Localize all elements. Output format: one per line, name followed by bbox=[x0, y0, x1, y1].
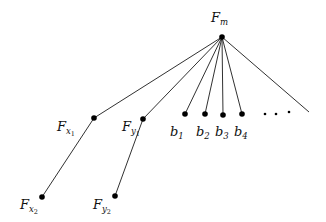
label-fx2: Fx2 bbox=[20, 198, 38, 212]
edge-fm-b2 bbox=[205, 37, 222, 114]
node-fy1 bbox=[140, 116, 146, 122]
tree-edges bbox=[0, 0, 326, 222]
edge-fm-open bbox=[222, 37, 309, 112]
tree-diagram: Fm Fx1 Fy1 b1 b2 b3 b4 Fx2 Fy2 bbox=[0, 0, 326, 222]
edge-fm-fy1 bbox=[143, 37, 222, 119]
ellipsis-dot-3 bbox=[288, 111, 291, 114]
node-b2 bbox=[202, 111, 208, 117]
node-b1 bbox=[182, 111, 188, 117]
label-fy1: Fy1 bbox=[122, 120, 140, 134]
edge-fm-b3 bbox=[222, 37, 223, 115]
label-b4: b4 bbox=[234, 125, 248, 138]
ellipsis-dot-2 bbox=[275, 113, 278, 116]
edge-fm-b4 bbox=[222, 37, 242, 114]
label-fm: Fm bbox=[211, 11, 228, 24]
node-fx2 bbox=[39, 194, 45, 200]
ellipsis-dot-1 bbox=[264, 113, 267, 116]
node-fx1 bbox=[91, 115, 97, 121]
node-b4 bbox=[239, 111, 245, 117]
node-fy2 bbox=[112, 193, 118, 199]
label-b1: b1 bbox=[170, 125, 184, 138]
label-b2: b2 bbox=[196, 125, 210, 138]
label-b3: b3 bbox=[215, 125, 229, 138]
node-b3 bbox=[220, 112, 226, 118]
label-fx1: Fx1 bbox=[57, 120, 75, 134]
label-fy2: Fy2 bbox=[93, 198, 111, 212]
node-fm bbox=[219, 34, 225, 40]
